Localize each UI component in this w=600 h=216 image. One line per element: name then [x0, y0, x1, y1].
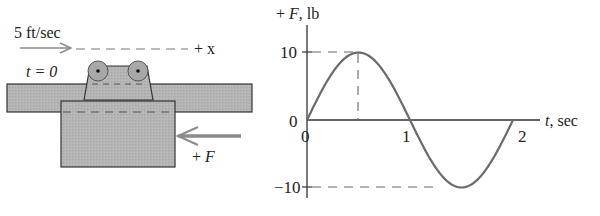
- wheel-right: [128, 61, 148, 81]
- y-tick-10: 10: [280, 43, 297, 62]
- y-axis-title: + F, lb: [276, 5, 319, 22]
- force-label: + F: [192, 148, 215, 165]
- x-tick-0: 0: [301, 127, 310, 146]
- x-axis-label: + x: [194, 40, 215, 57]
- x-tick-2: 2: [518, 127, 527, 146]
- force-arrow: [178, 127, 241, 145]
- x-tick-1: 1: [402, 127, 411, 146]
- time-label: t = 0: [26, 63, 57, 80]
- velocity-label: 5 ft/sec: [14, 24, 61, 41]
- wheel-left: [88, 61, 108, 81]
- figure-canvas: 5 ft/sec + x t = 0 + F: [0, 0, 600, 216]
- velocity-arrow: [20, 43, 71, 53]
- y-tick-neg10: −10: [274, 178, 301, 197]
- force-time-chart: + F, lb t, sec 10 0 −10 0 1 2: [274, 5, 578, 198]
- mechanism-diagram: 5 ft/sec + x t = 0 + F: [7, 24, 252, 167]
- block: [61, 101, 175, 167]
- x-axis-title: t, sec: [545, 112, 578, 129]
- y-tick-0: 0: [289, 112, 298, 131]
